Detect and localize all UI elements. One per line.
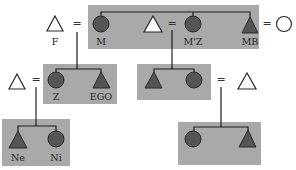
mb-wife-circle-icon <box>277 17 292 32</box>
marriage-sign-f-m: = <box>72 17 81 30</box>
label-sister: Z <box>53 91 60 102</box>
label-mothers-sister: M'Z <box>184 36 203 47</box>
cousin-husband-triangle-icon <box>238 73 256 89</box>
label-mother: M <box>96 36 106 47</box>
mother-circle-icon <box>93 16 109 32</box>
label-nephew: Ne <box>11 152 25 163</box>
z-husband-triangle-icon <box>9 74 25 89</box>
label-ego: EGO <box>90 91 113 102</box>
mothers-sister-circle-icon <box>185 16 201 32</box>
sister-circle-icon <box>48 72 64 88</box>
kinship-diagram: F = M = M'Z MB = = Z EGO = Ne Ni <box>0 0 296 170</box>
marriage-sign-mz: = <box>167 17 176 30</box>
marriage-sign-z: = <box>31 73 40 86</box>
marriage-sign-cousin: = <box>216 73 225 86</box>
niece-circle-icon <box>48 131 64 147</box>
cousins-daughter-circle-icon <box>185 131 201 147</box>
female-cousin-circle-icon <box>186 72 202 88</box>
marriage-sign-mb: = <box>262 17 271 30</box>
father-triangle-icon <box>47 16 63 31</box>
label-niece: Ni <box>50 152 61 163</box>
label-father: F <box>52 36 59 47</box>
label-mothers-brother: MB <box>242 36 259 47</box>
